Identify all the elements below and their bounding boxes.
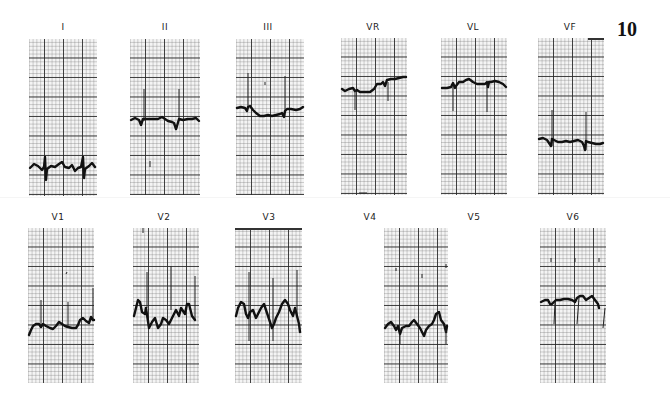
ecg-strip-lead-v4 (384, 228, 448, 383)
ecg-trace-lead-v6 (540, 228, 606, 383)
lead-label-iii: III (238, 22, 298, 32)
lead-label-i: I (33, 22, 93, 32)
ecg-strip-lead-i (29, 39, 97, 196)
ecg-strip-lead-v6 (540, 228, 606, 383)
ecg-strip-lead-ii (130, 39, 200, 195)
ecg-trace-lead-v3 (235, 228, 302, 383)
lead-label-v4: V4 (340, 212, 400, 222)
ecg-trace-lead-ii (130, 39, 200, 195)
lead-label-ii: II (135, 22, 195, 32)
lead-label-v5: V5 (444, 212, 504, 222)
ecg-strip-lead-vf (538, 38, 604, 195)
ecg-strip-lead-v3 (235, 228, 302, 383)
lead-label-v6: V6 (543, 212, 603, 222)
lead-label-v2: V2 (134, 212, 194, 222)
ecg-trace-lead-v4 (384, 228, 448, 383)
scan-artifact (0, 197, 670, 198)
lead-label-vf: VF (540, 22, 600, 32)
lead-label-vl: VL (443, 22, 503, 32)
ecg-trace-lead-vf (538, 38, 604, 195)
ecg-trace-lead-v2 (133, 228, 199, 383)
ecg-strip-lead-v1 (28, 228, 94, 383)
ecg-trace-lead-iii (236, 39, 304, 195)
lead-label-v1: V1 (28, 212, 88, 222)
ecg-trace-lead-vr (341, 38, 407, 195)
lead-label-v3: V3 (239, 212, 299, 222)
ecg-strip-lead-iii (236, 39, 304, 195)
lead-label-vr: VR (343, 22, 403, 32)
ecg-strip-lead-vr (341, 38, 407, 195)
ecg-trace-lead-i (29, 39, 97, 196)
ecg-strip-lead-v2 (133, 228, 199, 383)
ecg-trace-lead-v1 (28, 228, 94, 383)
page-number: 10 (617, 18, 637, 41)
ecg-strip-lead-vl (441, 38, 507, 195)
ecg-trace-lead-vl (441, 38, 507, 195)
